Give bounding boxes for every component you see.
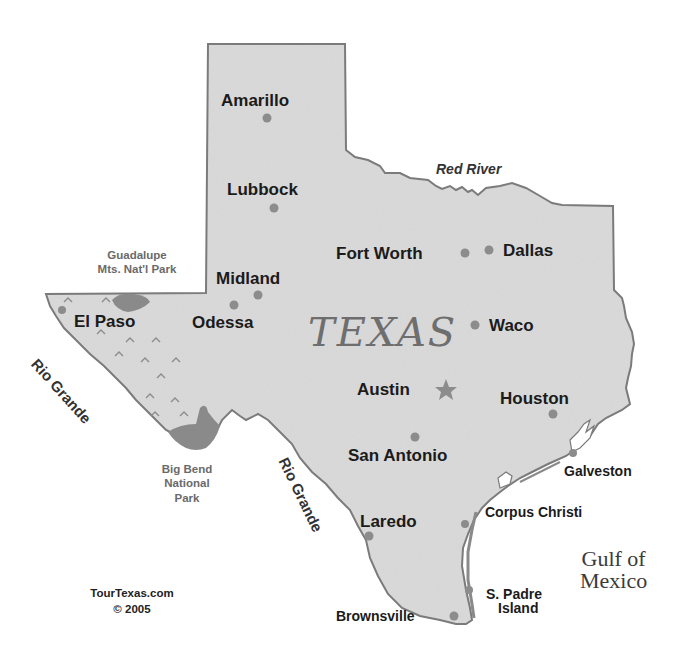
city-label-odessa: Odessa (192, 314, 253, 331)
big-bend-line2: National (152, 476, 222, 490)
city-label-midland: Midland (216, 270, 280, 287)
city-label-san-antonio: San Antonio (348, 447, 447, 464)
lubbock-dot (270, 204, 279, 213)
guadalupe-line2: Mts. Nat'l Park (74, 262, 200, 276)
city-label-s-padre: S. Padre Island (486, 587, 542, 615)
city-label-laredo: Laredo (360, 513, 417, 530)
amarillo-dot (263, 114, 272, 123)
city-label-dallas: Dallas (503, 242, 553, 259)
city-label-galveston: Galveston (564, 464, 632, 478)
credit-site: TourTexas.com (82, 585, 182, 601)
state-name-label: TEXAS (308, 312, 457, 352)
city-label-amarillo: Amarillo (221, 92, 289, 109)
san-antonio-dot (411, 433, 420, 442)
city-label-waco: Waco (489, 317, 534, 334)
fort-worth-dot (461, 249, 470, 258)
s-padre-island-dot (465, 586, 473, 594)
odessa-dot (230, 301, 239, 310)
houston-dot (549, 410, 558, 419)
texas-map: TEXAS Amarillo Lubbock Fort Worth Dallas… (0, 0, 698, 663)
city-label-fort-worth: Fort Worth (336, 245, 423, 262)
el-paso-dot (58, 306, 66, 314)
big-bend-line1: Big Bend (152, 462, 222, 476)
park-label-guadalupe: Guadalupe Mts. Nat'l Park (74, 248, 200, 277)
gulf-line2: Mexico (580, 570, 647, 592)
city-label-lubbock: Lubbock (227, 181, 298, 198)
galveston-dot (569, 449, 577, 457)
city-label-el-paso: El Paso (74, 313, 135, 330)
city-label-brownsville: Brownsville (336, 609, 415, 623)
water-label-gulf: Gulf of Mexico (580, 548, 647, 592)
credit-block: TourTexas.com © 2005 (82, 585, 182, 617)
s-padre-line2: Island (486, 600, 538, 616)
laredo-dot (365, 532, 374, 541)
credit-year: © 2005 (82, 601, 182, 617)
brownsville-dot (450, 612, 459, 621)
city-label-houston: Houston (500, 390, 569, 407)
midland-dot (254, 291, 263, 300)
dallas-dot (485, 246, 494, 255)
waco-dot (471, 321, 480, 330)
big-bend-line3: Park (152, 491, 222, 505)
guadalupe-line1: Guadalupe (74, 248, 200, 262)
corpus-christi-dot (461, 520, 469, 528)
city-label-austin: Austin (357, 381, 410, 398)
river-label-red-river: Red River (436, 162, 501, 176)
city-label-corpus-christi: Corpus Christi (485, 505, 582, 519)
gulf-line1: Gulf of (580, 548, 647, 570)
park-label-big-bend: Big Bend National Park (152, 462, 222, 505)
